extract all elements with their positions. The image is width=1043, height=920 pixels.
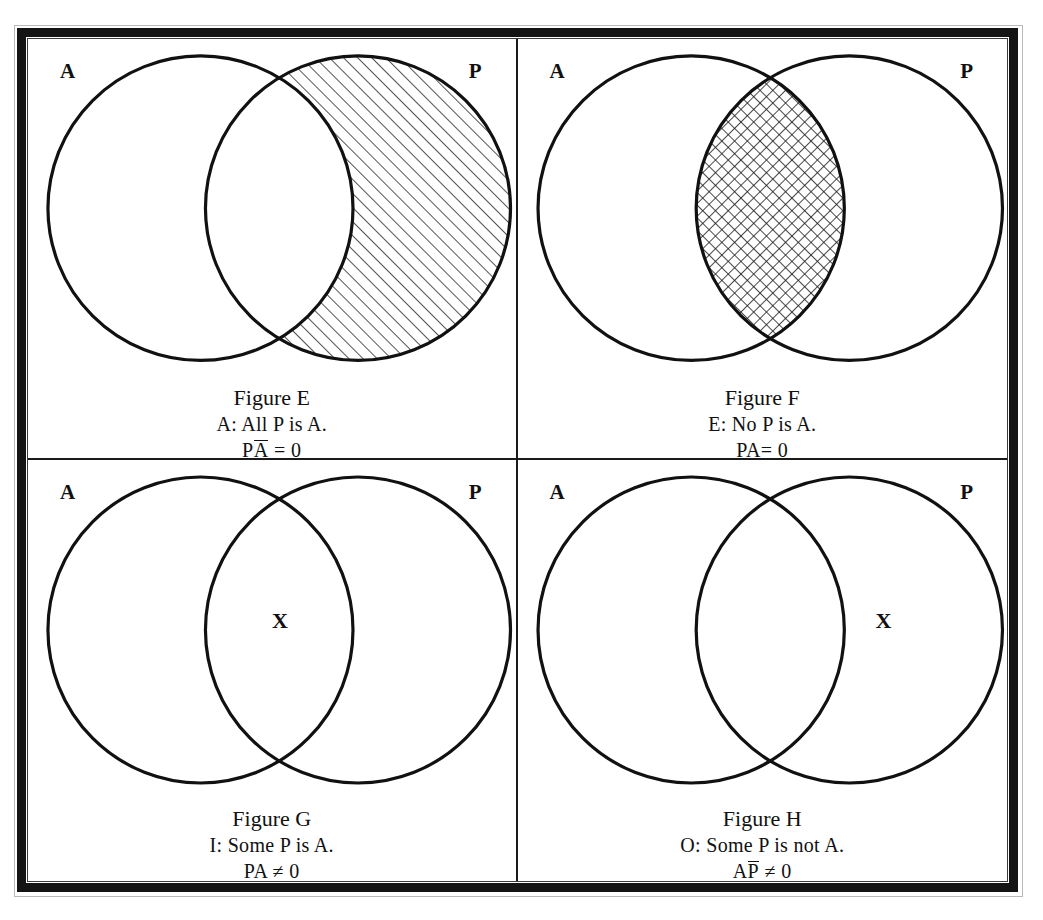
caption-proposition-h: O: Some P is not A.	[518, 832, 1008, 858]
x-mark-intersection-g: X	[272, 610, 288, 632]
panel-figure-e: A P Figure E A: All P is A. PA = 0	[28, 39, 518, 460]
caption-figure-e: Figure E A: All P is A. PA = 0	[28, 385, 516, 460]
circle-set-a	[538, 477, 844, 783]
caption-formula-h: AP ≠ 0	[518, 858, 1008, 881]
set-label-a-g: A	[60, 482, 75, 503]
figure-grid: A P Figure E A: All P is A. PA = 0	[28, 39, 1007, 881]
formula-suffix-h: ≠ 0	[759, 860, 792, 881]
caption-proposition-g: I: Some P is A.	[28, 832, 516, 858]
set-label-a-f: A	[550, 61, 565, 82]
caption-formula-g: PA ≠ 0	[28, 858, 516, 881]
caption-title-f: Figure F	[518, 385, 1008, 411]
formula-overline-h: P	[748, 861, 760, 881]
set-label-p-f: P	[960, 61, 973, 82]
caption-formula-f: PA= 0	[518, 437, 1008, 460]
set-label-a-e: A	[60, 61, 75, 82]
formula-suffix-e: = 0	[268, 439, 301, 460]
formula-overline-e: A	[254, 440, 269, 460]
panel-figure-f: A P Figure F E: No P is A. PA= 0	[518, 39, 1008, 460]
panel-figure-h: A P X Figure H O: Some P is not A. AP ≠ …	[518, 460, 1008, 881]
set-label-p-e: P	[469, 61, 482, 82]
caption-formula-e: PA = 0	[28, 437, 516, 460]
caption-figure-g: Figure G I: Some P is A. PA ≠ 0	[28, 806, 516, 881]
caption-proposition-e: A: All P is A.	[28, 411, 516, 437]
formula-prefix-e: P	[242, 439, 254, 460]
circle-set-a	[48, 477, 353, 783]
caption-title-g: Figure G	[28, 806, 516, 832]
set-label-p-g: P	[469, 482, 482, 503]
set-label-p-h: P	[960, 482, 973, 503]
set-label-a-h: A	[550, 482, 565, 503]
caption-title-e: Figure E	[28, 385, 516, 411]
scanned-page: A P Figure E A: All P is A. PA = 0	[0, 0, 1043, 920]
x-mark-p-not-a-h: X	[876, 610, 892, 632]
circle-set-p	[205, 477, 510, 783]
panel-figure-g: A P X Figure G I: Some P is A. PA ≠ 0	[28, 460, 518, 881]
caption-figure-f: Figure F E: No P is A. PA= 0	[518, 385, 1008, 460]
circle-set-p	[696, 477, 1002, 783]
caption-figure-h: Figure H O: Some P is not A. AP ≠ 0	[518, 806, 1008, 881]
formula-prefix-h: A	[733, 860, 748, 881]
caption-title-h: Figure H	[518, 806, 1008, 832]
caption-proposition-f: E: No P is A.	[518, 411, 1008, 437]
